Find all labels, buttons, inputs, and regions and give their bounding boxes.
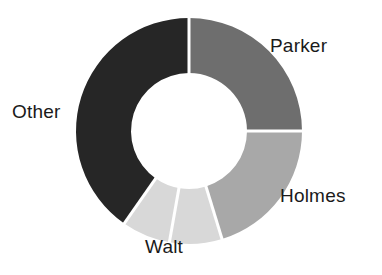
slice-label-walt: Walt [145, 237, 183, 256]
donut-chart: Parker Holmes Other Walt [0, 0, 382, 275]
slice-label-parker: Parker [270, 36, 327, 55]
slice-label-holmes: Holmes [280, 186, 346, 205]
slice-label-other: Other [12, 102, 61, 121]
